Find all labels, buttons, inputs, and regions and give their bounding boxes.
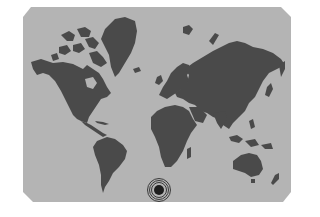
world-map-graphic	[23, 7, 291, 202]
target-icon[interactable]	[147, 178, 171, 202]
world-map[interactable]	[23, 7, 291, 202]
tasmania	[251, 179, 255, 183]
madagascar	[187, 147, 191, 159]
target-marker-graphic	[147, 178, 171, 202]
